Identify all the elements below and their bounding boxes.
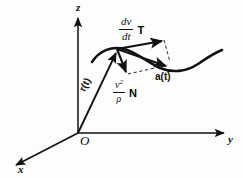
unit-normal-vector-label: N	[129, 87, 137, 99]
resultant-acceleration-vector	[117, 49, 166, 66]
position-vector-r	[78, 53, 116, 133]
unit-tangent-vector-label: T	[137, 24, 144, 36]
x-axis-label: x	[18, 164, 24, 175]
vector-diagram-figure: z y x O r(t) dv dt T v2 ρ N a(t)	[0, 0, 243, 178]
x-axis	[16, 133, 78, 165]
y-axis-label: y	[228, 134, 233, 145]
z-axis-label: z	[76, 2, 80, 13]
dv-dt-numerator: dv	[119, 16, 133, 28]
tangential-component-label-group: dv dt T	[119, 16, 145, 42]
rho-denominator: ρ	[115, 94, 124, 105]
acceleration-vector-label: a(t)	[155, 72, 171, 82]
v-exponent: 2	[119, 78, 123, 86]
parallelogram-dashed-right	[164, 40, 170, 62]
origin-label: O	[80, 134, 89, 147]
v-squared-numerator: v2	[113, 79, 125, 91]
dv-dt-denominator: dt	[120, 31, 133, 43]
normal-component-label-group: v2 ρ N	[113, 79, 137, 105]
dv-dt-fraction: dv dt	[119, 16, 133, 42]
v-squared-rho-fraction: v2 ρ	[113, 79, 125, 105]
